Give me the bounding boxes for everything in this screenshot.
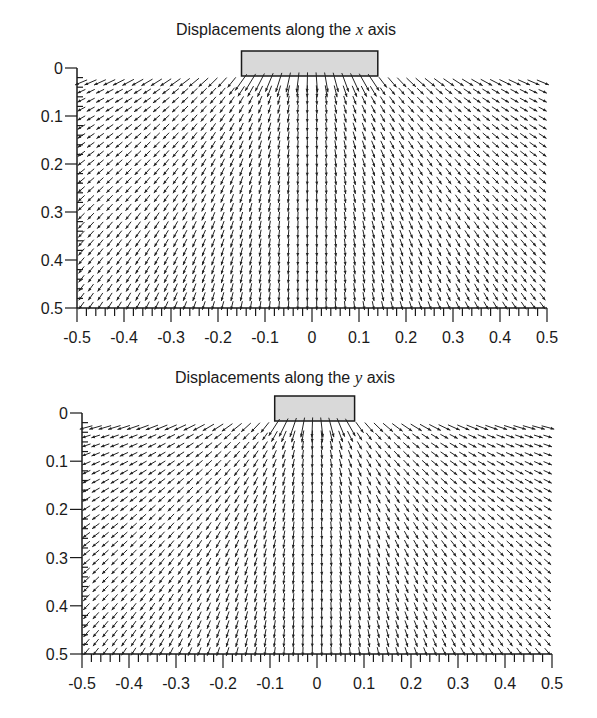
x-tick-label: -0.3 (162, 675, 190, 692)
y-tick-label: 0.5 (46, 646, 68, 663)
chart-y-displacements: Displacements along the y axis 00.10.20.… (0, 0, 597, 718)
y-tick-label: 0 (59, 405, 68, 422)
x-tick-label: 0 (313, 675, 322, 692)
x-tick-label: 0.3 (447, 675, 469, 692)
y-tick-label: 0.2 (46, 501, 68, 518)
x-tick-label: -0.5 (68, 675, 96, 692)
x-tick-label: 0.4 (494, 675, 516, 692)
y-tick-label: 0.3 (46, 550, 68, 567)
x-tick-label: -0.4 (115, 675, 143, 692)
x-tick-label: 0.5 (541, 675, 563, 692)
y-tick-label: 0.4 (46, 598, 68, 615)
vector-field (80, 417, 554, 656)
load-block (275, 396, 355, 421)
x-tick-label: -0.1 (256, 675, 284, 692)
plot-area: 00.10.20.30.40.5-0.5-0.4-0.3-0.2-0.100.1… (0, 0, 597, 718)
y-tick-label: 0.1 (46, 453, 68, 470)
x-tick-label: -0.2 (209, 675, 237, 692)
x-tick-label: 0.1 (353, 675, 375, 692)
x-tick-label: 0.2 (400, 675, 422, 692)
